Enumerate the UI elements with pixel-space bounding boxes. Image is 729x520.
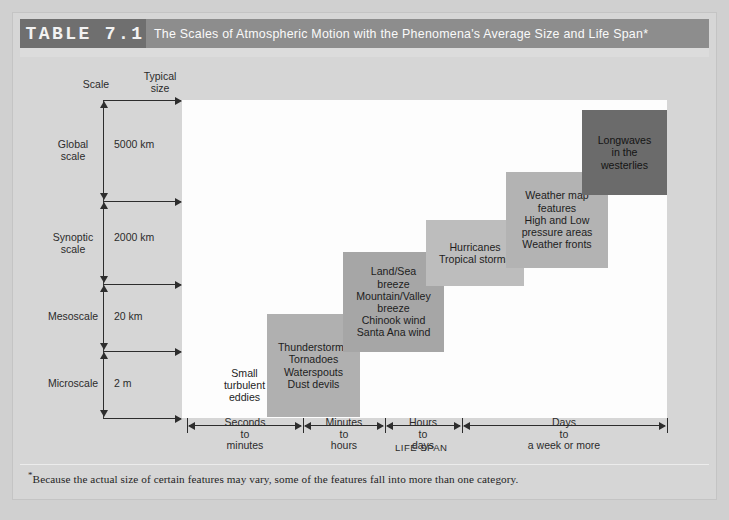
scale-axis-heading: Scale (67, 79, 125, 91)
lifespan-label-1: Minutes to hours (310, 417, 378, 452)
page-root: TABLE 7.1 The Scales of Atmospheric Moti… (0, 0, 729, 520)
scale-label-microscale: Microscale (44, 378, 102, 390)
size-rule-2m (103, 418, 181, 419)
block-label: Weather map features High and Low pressu… (522, 189, 593, 250)
size-rule-20km (103, 351, 181, 352)
band-arrow-synoptic (103, 203, 104, 282)
block-label: Thunderstorms Tornadoes Waterspouts Dust… (278, 341, 349, 390)
scale-label-mesoscale: Mesoscale (44, 311, 102, 323)
size-label-2000km: 2000 km (114, 232, 180, 244)
table-title: The Scales of Atmospheric Motion with th… (154, 19, 648, 48)
lifespan-label-0: Seconds to minutes (204, 417, 286, 452)
block-label: Land/Sea breeze Mountain/Valley breeze C… (356, 265, 431, 338)
band-arrow-micro (103, 353, 104, 416)
scale-label-synoptic: Synoptic scale (44, 232, 102, 255)
block-label: Small turbulent eddies (224, 367, 265, 404)
size-label-20km: 20 km (114, 311, 180, 323)
lifespan-tick-4 (667, 418, 668, 433)
block-label: Longwaves in the westerlies (598, 134, 652, 171)
scale-label-global: Global scale (44, 139, 102, 162)
lifespan-label-3: Days to a week or more (502, 417, 626, 452)
band-arrow-meso (103, 286, 104, 349)
size-label-2m: 2 m (114, 378, 180, 390)
table-number-badge: TABLE 7.1 (20, 19, 146, 48)
size-rule-top (103, 100, 181, 101)
chart-area: Scale Typical size Global scale Synoptic… (20, 57, 709, 461)
footnote-text: Because the actual size of certain featu… (33, 473, 519, 485)
band-arrow-global (103, 102, 104, 199)
size-label-5000km: 5000 km (114, 139, 180, 151)
lifespan-axis-title: LIFE SPAN (395, 442, 447, 453)
header-underband (20, 48, 709, 57)
block-label: Hurricanes Tropical storms (439, 241, 511, 265)
block-longwaves-westerlies[interactable]: Longwaves in the westerlies (582, 110, 667, 195)
typical-size-heading: Typical size (132, 71, 188, 94)
footnote-divider (20, 464, 709, 465)
table-header-bar: TABLE 7.1 The Scales of Atmospheric Moti… (20, 19, 709, 48)
footnote: *Because the actual size of certain feat… (28, 470, 698, 485)
size-rule-2000km (103, 284, 181, 285)
table-card: TABLE 7.1 The Scales of Atmospheric Moti… (12, 12, 717, 500)
size-rule-5000km (103, 201, 181, 202)
